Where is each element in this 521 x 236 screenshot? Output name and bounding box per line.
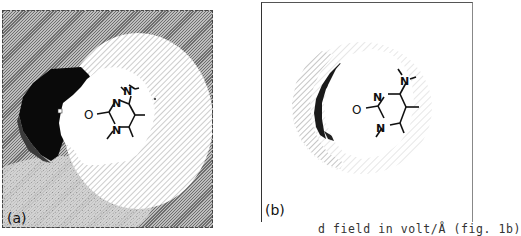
panel-label-b: (b) bbox=[265, 202, 285, 218]
atom-n-top-b: N bbox=[373, 91, 382, 104]
atom-n-bottom-b: N bbox=[376, 122, 385, 135]
field-map-b: O N N N bbox=[262, 3, 473, 222]
figure-panel-a: O N N N (a) bbox=[2, 10, 213, 228]
atom-oxygen-a: O bbox=[84, 108, 93, 122]
atom-n-amine-a: N bbox=[123, 85, 132, 98]
field-map-a: O N N N bbox=[3, 11, 213, 228]
atom-n-amine-b: N bbox=[400, 75, 409, 88]
figure-panel-b: O N N N (b) bbox=[261, 2, 473, 222]
panel-label-a: (a) bbox=[7, 210, 27, 226]
atom-n-bottom-a: N bbox=[112, 124, 121, 137]
atom-oxygen-b: O bbox=[352, 103, 361, 117]
atom-n-top-a: N bbox=[112, 97, 121, 110]
figure-caption-fragment: d field in volt/Å (fig. 1b) bbox=[318, 222, 521, 236]
